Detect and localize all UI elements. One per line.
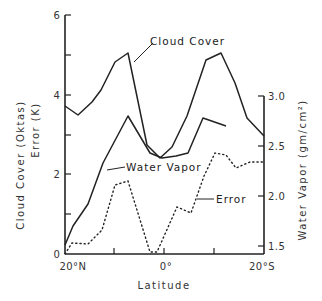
svg-text:Water Vapor: Water Vapor [126, 161, 202, 173]
left-tick-2: 2 [54, 169, 61, 180]
left-tick-6: 6 [54, 10, 61, 21]
chart-figure: 6 4 2 0 Cloud Cover (Oktas) Error (K) 3.… [0, 0, 322, 301]
x-tick-20s: 20°S [249, 261, 275, 272]
x-tick-20n: 20°N [59, 261, 86, 272]
right-tick-1.5: 1.5 [268, 241, 285, 252]
annotation-error: Error [197, 193, 247, 205]
left-tick-0: 0 [54, 249, 61, 260]
left-axis-title-cloud: Cloud Cover (Oktas) [15, 100, 26, 229]
x-tick-0: 0° [160, 261, 172, 272]
right-y-axis: 3.0 2.5 2.0 1.5 [258, 91, 285, 254]
left-y-axis: 6 4 2 0 [54, 10, 71, 260]
left-tick-4: 4 [54, 90, 61, 101]
x-axis: 20°N 0° 20°S [59, 248, 275, 272]
right-tick-2.5: 2.5 [268, 141, 285, 152]
x-axis-title: Latitude [137, 280, 190, 291]
left-axis-title-error: Error (K) [30, 102, 41, 157]
series-cloud-cover [65, 53, 264, 158]
right-tick-2.0: 2.0 [268, 191, 285, 202]
annotation-water-vapor: Water Vapor [107, 161, 202, 173]
right-tick-3.0: 3.0 [268, 91, 285, 102]
svg-text:Error: Error [216, 193, 247, 205]
right-axis-title: Water Vapor (gm/cm²) [297, 99, 308, 240]
svg-text:Cloud Cover: Cloud Cover [150, 35, 225, 47]
